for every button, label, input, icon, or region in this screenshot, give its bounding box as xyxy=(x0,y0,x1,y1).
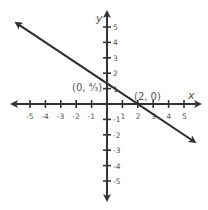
graph-svg: -5-4-3-2-11234554321-1-2-3-4-5 x y (0, ⁴… xyxy=(0,0,208,210)
x-tick-label: 4 xyxy=(167,112,172,121)
x-tick-label: 2 xyxy=(136,112,141,121)
x-tick-label: -4 xyxy=(41,112,49,121)
point-label-y-intercept: (0, ⁴⁄₃) xyxy=(72,82,102,93)
y-tick-label: -4 xyxy=(113,162,121,171)
x-axis-label: x xyxy=(187,89,195,102)
x-tick-label: -3 xyxy=(57,112,65,121)
y-tick-label: -1 xyxy=(113,115,121,124)
axes xyxy=(12,12,200,200)
y-tick-label: -3 xyxy=(113,146,121,155)
y-axis-label: y xyxy=(95,12,103,25)
y-tick-label: -5 xyxy=(113,177,121,186)
y-tick-label: 5 xyxy=(113,23,118,32)
x-tick-label: -1 xyxy=(88,112,96,121)
x-tick-label: -2 xyxy=(72,112,80,121)
data-line xyxy=(16,23,195,142)
x-tick-label: -5 xyxy=(26,112,34,121)
y-tick-label: 2 xyxy=(113,69,118,78)
point-label-x-intercept: (2, 0) xyxy=(134,91,161,102)
coordinate-plane: -5-4-3-2-11234554321-1-2-3-4-5 x y (0, ⁴… xyxy=(0,0,208,210)
y-tick-label: 4 xyxy=(113,38,118,47)
x-tick-label: 5 xyxy=(182,112,187,121)
y-tick-label: -2 xyxy=(113,131,121,140)
x-tick-label: 1 xyxy=(120,112,125,121)
y-tick-label: 3 xyxy=(113,54,118,63)
